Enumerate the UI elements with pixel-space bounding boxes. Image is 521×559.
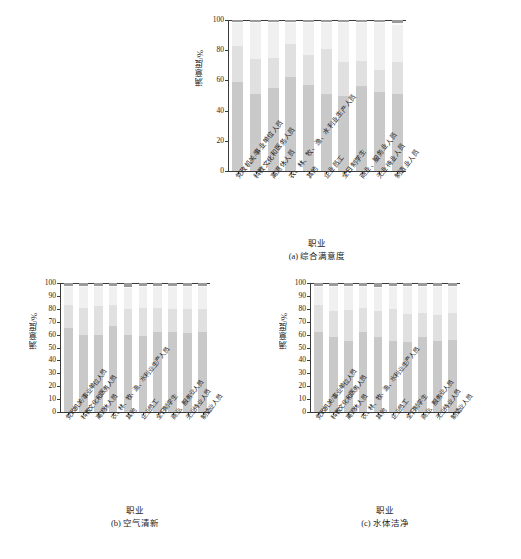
y-tick-label: 0	[302, 408, 306, 416]
y-tick	[57, 309, 61, 310]
bar-segment	[448, 313, 457, 340]
y-tick-label: 60	[299, 331, 307, 339]
y-tick	[57, 335, 61, 336]
x-axis-title-c: 职业	[310, 503, 460, 515]
y-tick	[307, 412, 311, 413]
y-tick-label: 70	[299, 318, 307, 326]
bar-segment	[303, 55, 314, 85]
bar-segment	[359, 308, 368, 333]
bar-segment	[321, 49, 332, 94]
y-tick	[307, 296, 311, 297]
bar-segment	[314, 305, 323, 332]
y-tick-label: 30	[299, 370, 307, 378]
y-tick	[57, 373, 61, 374]
y-tick-label: 80	[299, 305, 307, 313]
y-tick-label: 80	[217, 46, 225, 54]
y-tick	[307, 322, 311, 323]
bar-1	[314, 283, 323, 412]
y-tick-label: 20	[49, 382, 57, 390]
y-tick	[225, 50, 229, 51]
bar-6	[321, 20, 332, 171]
bar-segment	[303, 23, 314, 55]
bar-segment	[64, 287, 73, 305]
bar-7	[153, 283, 162, 412]
bar-segment	[338, 62, 349, 95]
y-axis-title-c: 满意度/%	[278, 313, 290, 349]
y-tick-label: 90	[299, 292, 307, 300]
bar-segment	[392, 25, 403, 63]
y-tick	[225, 20, 229, 21]
bar-segment	[139, 308, 148, 336]
bar-segment	[109, 305, 118, 326]
y-tick-label: 40	[299, 357, 307, 365]
bar-segment	[198, 309, 207, 332]
y-axis-title-b: 满意度/%	[28, 313, 40, 349]
y-tick-label: 40	[49, 357, 57, 365]
y-axis-title-a: 满意度/%	[194, 50, 206, 86]
y-tick-label: 10	[49, 395, 57, 403]
bar-segment	[64, 305, 73, 328]
y-tick	[307, 348, 311, 349]
caption-c: (c) 水体洁净	[300, 516, 470, 528]
bar-segment	[314, 287, 323, 305]
bar-segment	[232, 46, 243, 82]
y-tick-label: 60	[49, 331, 57, 339]
bar-segment	[389, 287, 398, 309]
bar-segment	[94, 306, 103, 334]
bar-segment	[124, 288, 133, 309]
y-tick	[225, 141, 229, 142]
bar-segment	[329, 287, 338, 312]
y-tick	[57, 360, 61, 361]
y-tick	[57, 283, 61, 284]
bar-segment	[285, 44, 296, 77]
y-tick-label: 50	[299, 344, 307, 352]
bar-segment	[268, 58, 279, 88]
bar-segment	[356, 61, 367, 87]
bar-segment	[344, 310, 353, 341]
y-tick-label: 50	[49, 344, 57, 352]
y-tick	[57, 322, 61, 323]
bar-segment	[232, 82, 243, 171]
y-tick-label: 90	[49, 292, 57, 300]
bar-segment	[418, 313, 427, 338]
bar-segment	[359, 287, 368, 308]
bar-segment	[250, 59, 261, 94]
bar-segment	[314, 332, 323, 412]
x-axis-title-a: 职业	[228, 236, 406, 248]
bar-1	[64, 283, 73, 412]
bar-6	[389, 283, 398, 412]
bar-segment	[433, 315, 442, 341]
bar-segment	[153, 287, 162, 308]
y-tick	[57, 399, 61, 400]
y-tick-label: 80	[49, 305, 57, 313]
y-tick-label: 0	[52, 408, 56, 416]
panel-c: 0102030405060708090100 满意度/% 职业 (c) 水体洁净…	[258, 275, 508, 555]
y-tick-label: 100	[295, 279, 306, 287]
bar-1	[232, 20, 243, 171]
caption-b: (b) 空气清新	[50, 516, 220, 528]
bar-segment	[183, 287, 192, 309]
bar-7	[403, 283, 412, 412]
y-tick	[307, 399, 311, 400]
y-tick	[307, 373, 311, 374]
bar-segment	[79, 287, 88, 308]
bar-segment	[356, 23, 367, 61]
bar-segment	[418, 287, 427, 313]
y-tick	[307, 386, 311, 387]
bar-segment	[139, 287, 148, 308]
bar-segment	[285, 23, 296, 44]
y-tick-label: 100	[213, 16, 224, 24]
bar-segment	[392, 62, 403, 94]
y-tick	[307, 360, 311, 361]
bar-segment	[183, 309, 192, 334]
y-tick-label: 0	[220, 167, 224, 175]
y-tick	[225, 171, 229, 172]
bar-segment	[321, 23, 332, 49]
y-tick	[57, 412, 61, 413]
bar-segment	[374, 311, 383, 337]
y-tick	[57, 296, 61, 297]
y-tick-label: 70	[49, 318, 57, 326]
caption-a: (a) 综合满意度	[218, 249, 416, 261]
y-tick-label: 10	[299, 395, 307, 403]
panel-b: 0102030405060708090100 满意度/% 职业 (b) 空气清新…	[8, 275, 258, 555]
